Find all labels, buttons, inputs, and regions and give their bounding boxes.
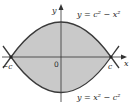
left-intercept-point (9, 55, 12, 58)
y-axis-label: y (51, 6, 57, 15)
right-intercept-label: c (108, 62, 113, 71)
upper-curve-equation: y = c² − x² (76, 10, 121, 19)
right-intercept-point (109, 55, 112, 58)
lower-curve-equation: y = x² − c² (76, 93, 121, 102)
origin-label: 0 (54, 60, 59, 69)
left-intercept-label: −c (2, 62, 13, 71)
diagram: y x 0 −c c y = c² − x² y = x² − c² (0, 0, 132, 109)
y-axis-arrow-icon (59, 4, 64, 10)
x-axis-label: x (124, 59, 129, 68)
